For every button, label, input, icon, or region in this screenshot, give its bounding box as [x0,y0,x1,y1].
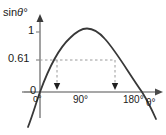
sine-curve [28,29,156,128]
y-axis-label: sinθ° [3,7,27,18]
sine-graph-figure: sinθ° θ° 1 0.61 0 0° 90° 180° [0,0,166,135]
second-solution-arrowhead [112,83,118,90]
x-tick-label-90: 90° [73,95,88,105]
x-tick-label-0: 0° [33,95,42,104]
y-axis-label-text: sin [3,6,17,18]
y-tick-label-061: 0.61 [8,53,29,64]
graph-canvas [0,0,166,135]
second-solution-marker [112,60,118,90]
y-tick-label-1: 1 [28,25,34,36]
x-axis-arrowhead [155,89,163,96]
x-tick-label-180: 180° [123,95,144,105]
first-solution-marker [54,60,60,90]
x-axis-label: θ° [146,98,156,108]
y-axis-arrowhead [37,14,44,22]
y-axis-label-variable: θ° [17,6,27,18]
first-solution-arrowhead [54,83,60,90]
